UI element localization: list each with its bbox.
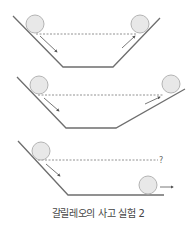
ball-start: [32, 142, 50, 160]
thought-experiment-diagram: ?: [0, 0, 196, 232]
panel-gentler-slope: [17, 75, 185, 128]
motion-arrow-up: [145, 97, 160, 104]
panel-flat-surface: ?: [18, 141, 173, 195]
question-mark: ?: [159, 156, 163, 165]
ball-moving: [139, 176, 157, 194]
ball-start: [26, 15, 44, 33]
ball-end: [131, 15, 149, 33]
panel-symmetric-slopes: [13, 15, 160, 67]
motion-arrow-down: [40, 36, 57, 52]
ball-start: [30, 76, 48, 94]
ball-end: [162, 75, 180, 93]
figure-caption: 갈릴레오의 사고 실험 2: [0, 205, 196, 220]
motion-arrow-down: [44, 98, 59, 111]
